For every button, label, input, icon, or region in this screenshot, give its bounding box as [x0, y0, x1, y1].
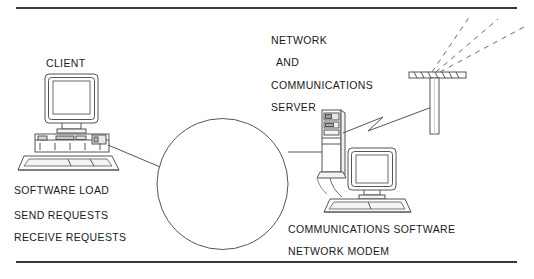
server-tower-icon [317, 110, 346, 178]
label-communications-software: COMMUNICATIONS SOFTWARE [288, 223, 455, 235]
label-communications: COMMUNICATIONS [271, 79, 373, 91]
label-network: NETWORK [271, 34, 327, 46]
network-diagram-figure: CLIENT SOFTWARE LOAD SEND REQUESTS RECEI… [0, 0, 534, 279]
label-send-requests: SEND REQUESTS [14, 209, 108, 221]
label-network-modem: NETWORK MODEM [288, 245, 389, 257]
client-computer-icon [18, 74, 119, 170]
label-software-load: SOFTWARE LOAD [14, 184, 109, 196]
label-and: AND [276, 56, 299, 68]
network-circle-icon [157, 119, 288, 250]
antenna-tower-icon [409, 72, 466, 134]
lightning-link-icon [343, 107, 432, 133]
signal-beams-icon [432, 16, 524, 72]
label-receive-requests: RECEIVE REQUESTS [14, 231, 126, 243]
label-client: CLIENT [46, 57, 85, 69]
label-server: SERVER [271, 101, 316, 113]
